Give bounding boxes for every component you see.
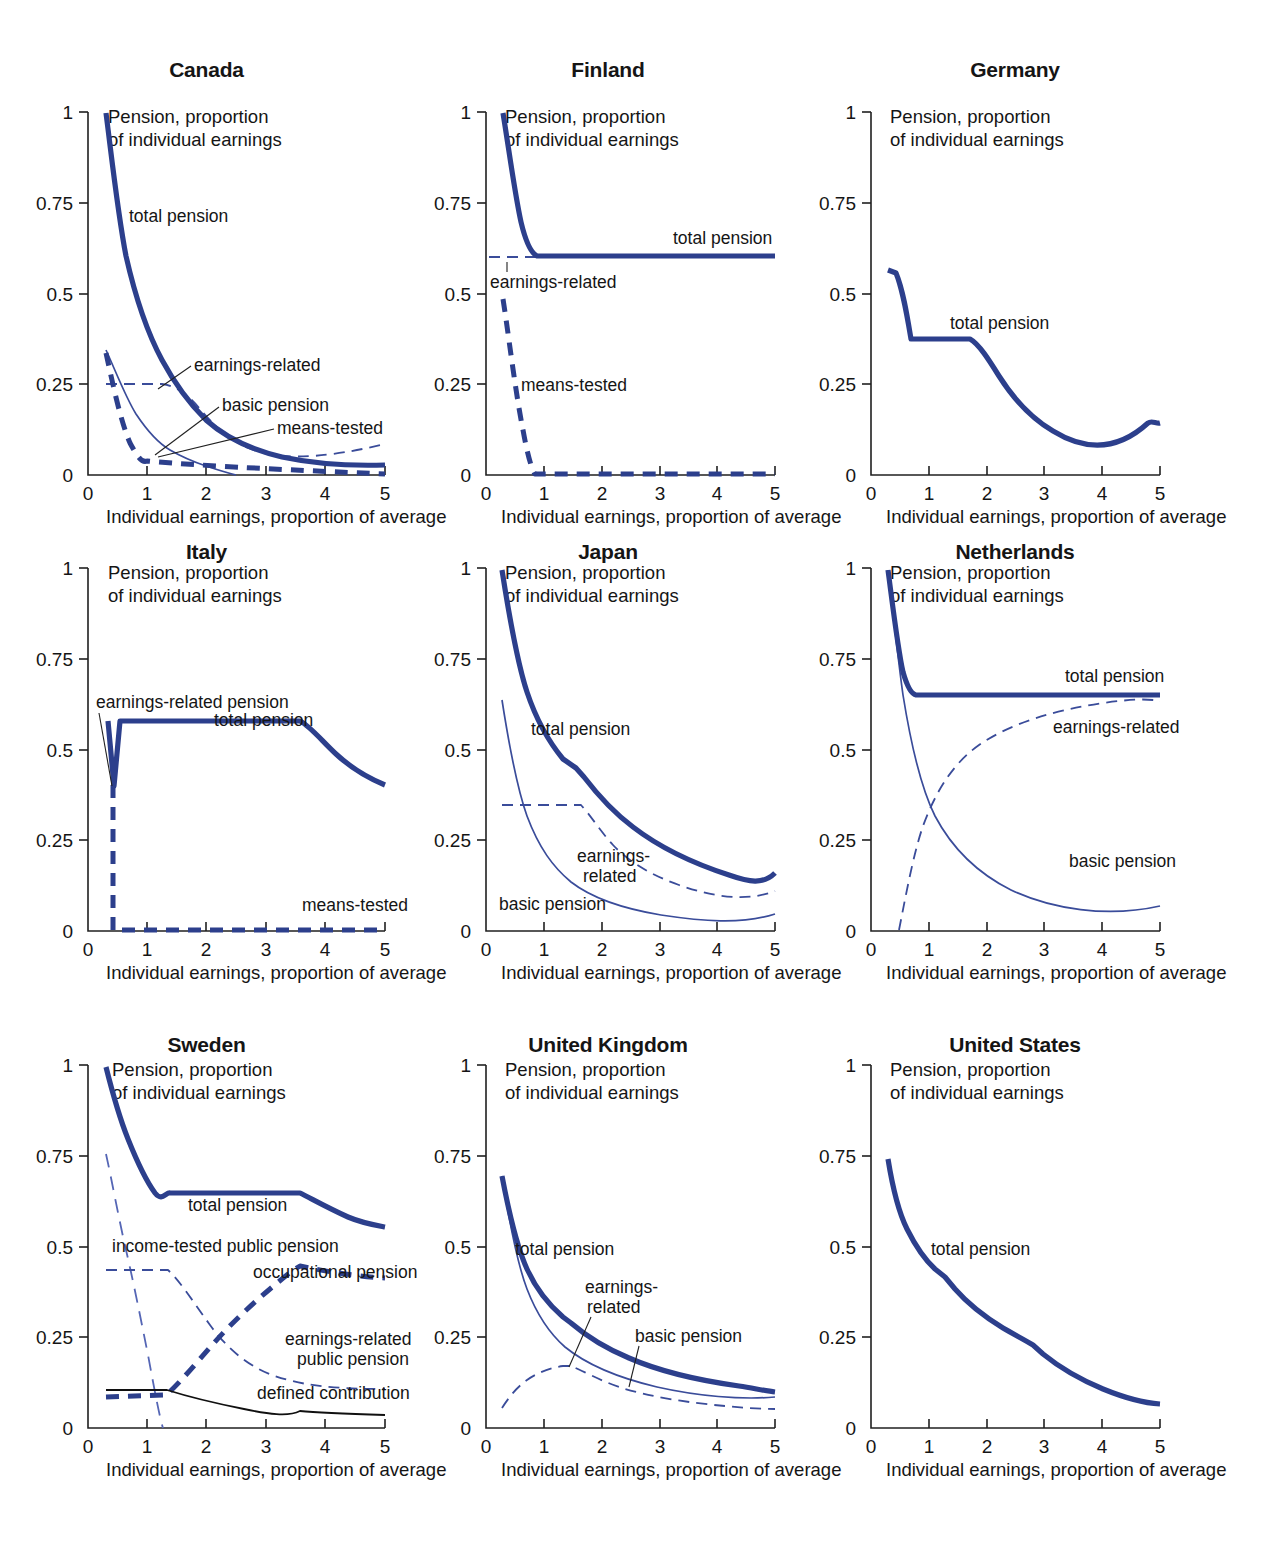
y-tick-0: 0 bbox=[845, 1418, 856, 1439]
x-tick-1: 1 bbox=[539, 939, 550, 960]
y-axis-title-line2: of individual earnings bbox=[505, 585, 679, 606]
y-tick-0: 0 bbox=[460, 1418, 471, 1439]
y-tick-025: 0.25 bbox=[434, 1327, 471, 1348]
y-tick-025: 0.25 bbox=[819, 830, 856, 851]
x-tick-5: 5 bbox=[380, 483, 391, 504]
x-axis-title: Individual earnings, proportion of avera… bbox=[886, 506, 1226, 527]
label-earnings-related: earnings-related bbox=[490, 272, 616, 292]
x-tick-0: 0 bbox=[481, 483, 492, 504]
label-total-pension: total pension bbox=[531, 719, 630, 739]
label-total-pension: total pension bbox=[188, 1195, 287, 1215]
axes bbox=[871, 112, 1160, 475]
label-occupational-pension: occupational pension bbox=[253, 1262, 417, 1282]
x-tick-4: 4 bbox=[320, 939, 331, 960]
y-tick-025: 0.25 bbox=[819, 1327, 856, 1348]
y-tick-05: 0.5 bbox=[47, 284, 73, 305]
y-tick-075: 0.75 bbox=[36, 193, 73, 214]
y-ticks bbox=[477, 568, 486, 840]
label-means-tested: means-tested bbox=[277, 418, 383, 438]
figure-grid: Canada 1 0.75 0.5 0.25 0 0 bbox=[0, 0, 1263, 1563]
y-tick-075: 0.75 bbox=[36, 1146, 73, 1167]
x-tick-1: 1 bbox=[142, 1436, 153, 1457]
y-tick-05: 0.5 bbox=[830, 740, 856, 761]
label-total-pension: total pension bbox=[673, 228, 772, 248]
x-tick-3: 3 bbox=[1039, 939, 1050, 960]
y-axis-title-line2: of individual earnings bbox=[890, 585, 1064, 606]
x-tick-1: 1 bbox=[924, 939, 935, 960]
x-ticks bbox=[929, 922, 1160, 931]
y-tick-05: 0.5 bbox=[445, 284, 471, 305]
y-tick-0: 0 bbox=[460, 921, 471, 942]
x-tick-3: 3 bbox=[1039, 483, 1050, 504]
x-tick-2: 2 bbox=[597, 483, 608, 504]
y-tick-075: 0.75 bbox=[819, 649, 856, 670]
y-tick-0: 0 bbox=[460, 465, 471, 486]
x-ticks bbox=[544, 1419, 775, 1428]
panel-italy: Italy 1 0.75 0.5 0.25 0 0 1 bbox=[0, 530, 413, 1015]
axes bbox=[88, 568, 385, 931]
x-ticks bbox=[929, 1419, 1160, 1428]
y-tick-05: 0.5 bbox=[830, 1237, 856, 1258]
series-total-pension bbox=[108, 721, 385, 786]
x-tick-4: 4 bbox=[320, 1436, 331, 1457]
y-tick-05: 0.5 bbox=[47, 740, 73, 761]
y-tick-025: 0.25 bbox=[36, 374, 73, 395]
y-ticks bbox=[477, 112, 486, 384]
series-total-pension bbox=[888, 1159, 1160, 1404]
label-income-tested-public-pension: income-tested public pension bbox=[112, 1236, 339, 1256]
y-axis-title-line2: of individual earnings bbox=[108, 585, 282, 606]
y-tick-05: 0.5 bbox=[47, 1237, 73, 1258]
panel-finland: Finland 1 0.75 0.5 0.25 0 0 1 bbox=[413, 0, 803, 530]
label-earnings-related-line2: related bbox=[587, 1297, 641, 1317]
panel-sweden: Sweden 1 0.75 0.5 0.25 0 0 1 bbox=[0, 1015, 413, 1563]
x-tick-3: 3 bbox=[261, 1436, 272, 1457]
x-tick-4: 4 bbox=[712, 483, 723, 504]
x-tick-1: 1 bbox=[539, 1436, 550, 1457]
x-tick-3: 3 bbox=[261, 483, 272, 504]
label-earnings-related: earnings-related bbox=[194, 355, 320, 375]
label-means-tested: means-tested bbox=[302, 895, 408, 915]
panel-germany: Germany 1 0.75 0.5 0.25 0 0 1 bbox=[803, 0, 1263, 530]
leader-means-tested bbox=[158, 429, 274, 457]
x-tick-1: 1 bbox=[539, 483, 550, 504]
label-total-pension: total pension bbox=[515, 1239, 614, 1259]
y-tick-1: 1 bbox=[62, 558, 73, 579]
axes bbox=[871, 568, 1160, 931]
y-axis-title-line2: of individual earnings bbox=[112, 1082, 286, 1103]
x-tick-0: 0 bbox=[481, 1436, 492, 1457]
x-tick-5: 5 bbox=[1155, 939, 1166, 960]
y-tick-1: 1 bbox=[460, 1055, 471, 1076]
y-tick-1: 1 bbox=[845, 558, 856, 579]
y-axis-title-line2: of individual earnings bbox=[890, 1082, 1064, 1103]
label-basic-pension: basic pension bbox=[499, 894, 606, 914]
y-ticks bbox=[862, 1065, 871, 1337]
label-means-tested: means-tested bbox=[521, 375, 627, 395]
x-tick-4: 4 bbox=[712, 1436, 723, 1457]
y-tick-1: 1 bbox=[460, 558, 471, 579]
x-tick-2: 2 bbox=[201, 483, 212, 504]
y-tick-075: 0.75 bbox=[36, 649, 73, 670]
y-tick-075: 0.75 bbox=[819, 193, 856, 214]
x-tick-5: 5 bbox=[1155, 483, 1166, 504]
label-earnings-related: earnings-related bbox=[1053, 717, 1179, 737]
y-axis-title-line1: Pension, proportion bbox=[890, 562, 1050, 583]
y-tick-0: 0 bbox=[62, 921, 73, 942]
x-tick-2: 2 bbox=[982, 939, 993, 960]
y-tick-05: 0.5 bbox=[445, 740, 471, 761]
y-tick-075: 0.75 bbox=[434, 193, 471, 214]
y-tick-1: 1 bbox=[62, 102, 73, 123]
x-tick-2: 2 bbox=[597, 939, 608, 960]
label-total-pension: total pension bbox=[214, 710, 313, 730]
label-earnings-related-public-l1: earnings-related bbox=[285, 1329, 411, 1349]
y-tick-075: 0.75 bbox=[434, 1146, 471, 1167]
y-tick-1: 1 bbox=[845, 102, 856, 123]
y-tick-05: 0.5 bbox=[830, 284, 856, 305]
y-tick-0: 0 bbox=[845, 465, 856, 486]
y-axis-title-line2: of individual earnings bbox=[108, 129, 282, 150]
y-axis-title-line2: of individual earnings bbox=[890, 129, 1064, 150]
x-ticks bbox=[929, 466, 1160, 475]
y-ticks bbox=[862, 568, 871, 840]
x-tick-1: 1 bbox=[142, 939, 153, 960]
y-tick-075: 0.75 bbox=[819, 1146, 856, 1167]
series-total-pension bbox=[888, 270, 1160, 445]
